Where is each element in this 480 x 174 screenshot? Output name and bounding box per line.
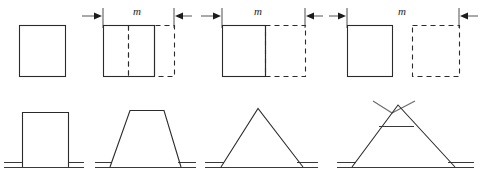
- arrow-head-out-left-2: [306, 13, 314, 20]
- arrow-head-in-right-2: [460, 13, 468, 20]
- panel-1-solid-rect: [20, 26, 66, 77]
- panel-2-block-overlap-large: m: [104, 5, 175, 77]
- panel-4-block-separated: m: [348, 5, 460, 77]
- profile-3-shape: [221, 109, 303, 168]
- panel-3-m-label: m: [254, 5, 262, 17]
- panel-2-solid-rect: [104, 26, 155, 77]
- panel-3-block-overlap-edge: m: [223, 5, 306, 77]
- arrow-pair-2: [305, 8, 347, 28]
- arrow-head-in-left-1: [94, 13, 102, 20]
- profile-1-shape: [23, 113, 69, 168]
- arrow-head-out-right-1: [213, 13, 221, 20]
- panel-4-dashed-rect: [413, 26, 460, 77]
- block-deformation-diagram: m m m: [0, 0, 480, 174]
- profile-3-triangular: [205, 109, 318, 168]
- panel-2-dashed-rect: [129, 26, 175, 77]
- profile-4-crossed-triangular: [337, 101, 474, 168]
- panel-3-dashed-rect: [266, 26, 306, 77]
- profile-1-rectangular: [4, 113, 84, 168]
- profile-2-trapezoidal: [95, 111, 196, 168]
- profile-4-shape: [352, 105, 455, 167]
- panel-1-initial-block: [20, 26, 66, 77]
- arrow-in-left-1: [82, 8, 103, 28]
- arrow-pair-1: [174, 8, 222, 28]
- profile-4-cross-left-extension: [373, 101, 392, 113]
- arrow-in-right-2: [459, 8, 478, 28]
- profile-2-shape: [110, 111, 181, 168]
- figure-container: m m m: [0, 0, 480, 174]
- panel-3-solid-rect: [223, 26, 266, 77]
- arrow-head-out-right-2: [338, 13, 346, 20]
- arrow-head-out-left-1: [175, 13, 183, 20]
- panel-4-solid-rect: [348, 26, 393, 77]
- panel-2-m-label: m: [133, 5, 141, 17]
- panel-4-m-label: m: [398, 5, 406, 17]
